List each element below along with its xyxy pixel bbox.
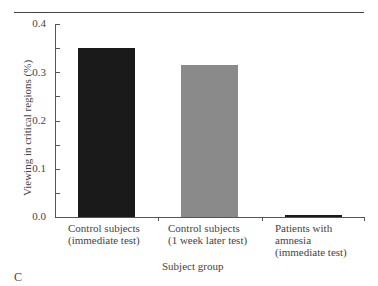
y-tick <box>55 145 60 146</box>
bar <box>78 48 135 217</box>
y-tick <box>55 193 60 194</box>
category-label: Control subjects (1 week later test) <box>168 222 247 246</box>
x-axis-label: Subject group <box>162 260 223 272</box>
y-tick-label: 0.1 <box>16 162 46 174</box>
y-tick-label: 0.4 <box>16 17 46 29</box>
y-tick <box>55 121 60 122</box>
y-tick <box>55 169 60 170</box>
y-tick <box>55 24 60 25</box>
category-label: Patients with amnesia (immediate test) <box>275 222 347 258</box>
x-tick <box>364 217 365 221</box>
category-label: Control subjects (immediate test) <box>68 222 140 246</box>
y-tick <box>55 72 60 73</box>
y-tick-label: 0.0 <box>16 210 46 222</box>
bar <box>285 215 342 217</box>
y-tick-label: 0.2 <box>16 114 46 126</box>
y-tick <box>55 96 60 97</box>
x-axis <box>55 217 365 218</box>
panel-label: C <box>14 270 22 285</box>
x-tick <box>158 217 159 221</box>
bar <box>181 65 238 217</box>
y-tick <box>55 48 60 49</box>
y-tick-label: 0.3 <box>16 66 46 78</box>
top-rule <box>14 12 364 13</box>
x-tick <box>262 217 263 221</box>
